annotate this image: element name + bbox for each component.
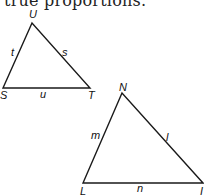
side-label-t: t: [11, 46, 15, 58]
vertex-label-i: I: [200, 185, 203, 195]
side-label-s: s: [62, 46, 68, 58]
vertex-label-n: N: [119, 81, 127, 93]
vertex-label-t: T: [88, 89, 96, 101]
side-label-m: m: [91, 129, 100, 141]
vertex-label-u: U: [29, 8, 37, 20]
triangle-lmn: NLImln: [80, 81, 203, 195]
vertex-label-l: L: [80, 185, 86, 195]
triangles-figure: USTtsu NLImln: [0, 0, 204, 195]
side-label-n: n: [137, 182, 143, 194]
triangle-stu: USTtsu: [0, 8, 96, 101]
vertex-label-s: S: [0, 89, 8, 101]
side-label-u: u: [40, 88, 46, 100]
side-label-l: l: [166, 131, 169, 143]
